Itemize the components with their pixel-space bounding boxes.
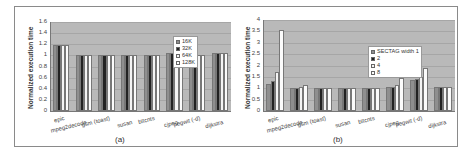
bar xyxy=(279,30,283,111)
legend-item: 2 xyxy=(371,55,419,62)
chart-b-sectag-width: 00.511.522.533.54Normalized execution ti… xyxy=(0,0,471,153)
bar xyxy=(423,68,427,111)
legend-swatch xyxy=(371,50,375,54)
x-tick-label: pegwit (-d) xyxy=(395,115,423,127)
bar-group xyxy=(335,20,359,111)
legend-item: 4 xyxy=(371,62,419,69)
bar xyxy=(303,85,307,111)
bar-group xyxy=(263,20,287,111)
legend-swatch xyxy=(371,71,375,75)
x-tick-label: dijkstra xyxy=(428,119,447,129)
legend-item: 8 xyxy=(371,69,419,76)
legend-item: SECTAG width 1 xyxy=(371,48,419,55)
bar xyxy=(375,88,379,111)
y-axis-line xyxy=(263,20,264,111)
bar-group xyxy=(431,20,455,111)
bar xyxy=(351,88,355,111)
legend: SECTAG width 1248 xyxy=(368,46,422,78)
bar xyxy=(327,88,331,111)
x-tick-label: gsm (toast) xyxy=(297,115,327,128)
chart-caption: (b) xyxy=(333,135,343,144)
bar-group xyxy=(311,20,335,111)
bar xyxy=(447,87,451,111)
bar xyxy=(399,78,403,111)
x-tick-label: epic xyxy=(267,115,279,123)
legend-label: SECTAG width 1 xyxy=(377,48,419,55)
x-tick-label: susan xyxy=(334,119,350,129)
legend-label: 4 xyxy=(377,62,380,69)
x-axis-line xyxy=(263,111,455,112)
legend-label: 2 xyxy=(377,55,380,62)
y-axis-label: Normalized execution time xyxy=(244,27,251,109)
y-tick-label: 4 xyxy=(246,16,260,22)
legend-swatch xyxy=(371,64,375,68)
x-tick-label: bitcnts xyxy=(357,115,375,125)
plot-area xyxy=(263,20,455,111)
legend-label: 8 xyxy=(377,69,380,76)
bar-group xyxy=(287,20,311,111)
legend-swatch xyxy=(371,57,375,61)
